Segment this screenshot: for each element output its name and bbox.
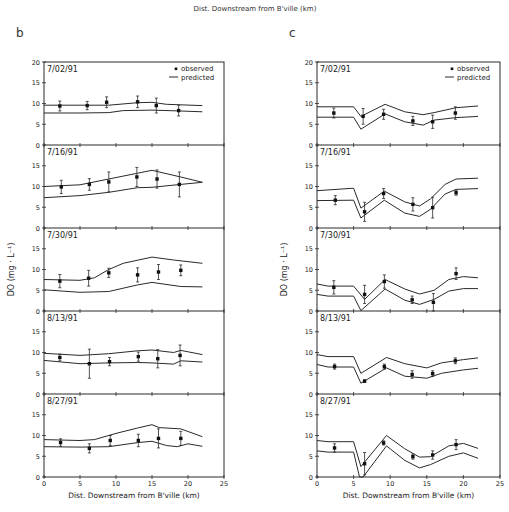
y-tick-label: 10 [305,183,313,191]
observed-point [454,111,457,114]
y-tick-label: 15 [305,162,313,170]
legend-observed-label: observed [457,65,489,73]
x-tick-label: 20 [184,480,192,488]
y-tick-label: 0 [36,474,40,482]
observed-point [363,462,366,465]
y-tick-label: 5 [309,287,313,295]
y-tick-label: 5 [36,204,40,212]
subplot-date-label: 8/13/91 [47,314,78,323]
x-tick-label: 10 [112,480,120,488]
subplot-date-label: 7/02/91 [47,65,78,74]
observed-point [382,192,385,195]
observed-point [334,198,337,201]
predicted-line [317,289,478,311]
observed-point [411,203,414,206]
y-tick-label: 5 [36,287,40,295]
legend-observed-marker [451,68,454,71]
observed-point [179,269,182,272]
x-tick-label: 25 [220,480,228,488]
predicted-line [44,441,202,447]
observed-point [107,180,110,183]
observed-point [431,206,434,209]
x-axis-label: Dist. Downstream from B'ville (km) [68,491,200,500]
observed-point [88,362,91,365]
chart-panel-b: 051015207/02/91observedpredicted0510157/… [7,59,228,501]
observed-point [411,455,414,458]
subplot-date-label: 7/30/91 [320,231,351,240]
y-tick-label: 5 [309,121,313,129]
y-tick-label: 10 [32,349,40,357]
y-tick-label: 10 [305,432,313,440]
observed-point [88,183,91,186]
predicted-line [317,114,478,129]
y-tick-label: 15 [32,411,40,419]
predicted-line [317,446,478,477]
x-tick-label: 0 [42,480,46,488]
y-tick-label: 0 [36,391,40,399]
observed-point [58,104,61,107]
y-tick-label: 15 [32,162,40,170]
predicted-line [44,257,202,280]
observed-point [363,293,366,296]
predicted-line [44,425,202,441]
legend-observed-label: observed [181,65,213,73]
subplot-7-02-91: 051015207/02/91observedpredicted [32,59,224,150]
observed-point [109,439,112,442]
legend-predicted-label: predicted [457,74,490,82]
subplot-date-label: 8/27/91 [47,397,78,406]
y-tick-label: 0 [309,225,313,233]
observed-point [410,373,413,376]
y-axis-label: DO (mg · L⁻¹) [7,243,16,297]
predicted-line [44,360,202,364]
observed-point [105,101,108,104]
observed-point [60,185,63,188]
chart-figure: 051015207/02/91observedpredicted0510157/… [0,0,509,512]
observed-point [178,183,181,186]
observed-point [135,175,138,178]
predicted-line [317,365,478,384]
x-axis-label: Dist. Downstream from B'ville (km) [343,491,475,500]
x-tick-label: 5 [78,480,82,488]
observed-point [454,272,457,275]
y-axis-label: DO (mg · L⁻¹) [280,243,289,297]
observed-point [383,280,386,283]
observed-point [410,298,413,301]
subplot-7-02-91: 051015207/02/91observedpredicted [305,59,500,150]
y-tick-label: 10 [32,266,40,274]
y-tick-label: 5 [309,204,313,212]
y-tick-label: 15 [305,328,313,336]
observed-point [363,379,366,382]
y-tick-label: 10 [305,266,313,274]
x-tick-label: 5 [352,480,356,488]
y-tick-label: 0 [36,225,40,233]
observed-point [332,111,335,114]
y-tick-label: 15 [305,79,313,87]
subplot-7-30-91: 0510157/30/91 [305,228,500,316]
y-tick-label: 0 [309,474,313,482]
y-tick-label: 0 [309,391,313,399]
y-tick-label: 5 [36,370,40,378]
observed-point [431,372,434,375]
y-tick-label: 0 [36,308,40,316]
y-tick-label: 10 [32,100,40,108]
observed-point [155,177,158,180]
subplot-7-16-91: 0510157/16/91 [305,145,500,233]
y-tick-label: 5 [36,121,40,129]
observed-point [157,437,160,440]
y-tick-label: 15 [32,245,40,253]
observed-point [333,446,336,449]
observed-point [136,100,139,103]
y-tick-label: 5 [36,453,40,461]
subplot-date-label: 8/27/91 [320,397,351,406]
observed-point [382,441,385,444]
predicted-line [44,282,202,292]
y-tick-label: 15 [32,328,40,336]
observed-point [137,355,140,358]
observed-point [178,354,181,357]
observed-point [411,119,414,122]
observed-point [454,359,457,362]
x-tick-label: 15 [148,480,156,488]
y-tick-label: 0 [309,308,313,316]
y-tick-label: 0 [309,142,313,150]
observed-point [157,270,160,273]
